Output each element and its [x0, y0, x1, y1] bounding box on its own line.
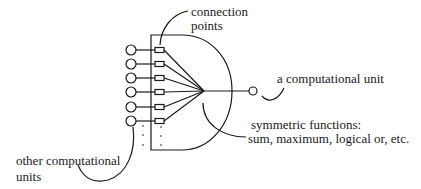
input-units: [126, 45, 136, 126]
connection-points: [155, 48, 164, 124]
other-units-label-line2: units: [16, 170, 41, 184]
other-units-label-line1: other computational: [16, 154, 120, 168]
continuation-dots: [142, 125, 162, 146]
connection-points-leader: [160, 11, 188, 45]
input-unit: [126, 45, 136, 55]
connection-points-label-line2: points: [191, 19, 223, 33]
connection-point: [155, 76, 164, 81]
computational-unit-label: a computational unit: [277, 72, 384, 86]
input-unit: [126, 87, 136, 97]
computational-unit-leader: [262, 88, 284, 100]
input-unit: [126, 102, 136, 112]
symmetric-functions-label-line2: sum, maximum, logical or, etc.: [248, 132, 409, 146]
input-unit: [126, 73, 136, 83]
fan-in-lines: [164, 50, 204, 121]
symmetric-functions-leader: [203, 103, 246, 137]
connection-point: [155, 48, 164, 53]
connection-point: [155, 62, 164, 67]
connection-points-label-line1: connection: [191, 5, 248, 19]
diagram-canvas: connection points a computational unit s…: [0, 0, 421, 189]
connection-point: [155, 105, 164, 110]
input-unit: [126, 116, 136, 126]
connection-point: [155, 90, 164, 95]
output-unit: [249, 87, 257, 95]
connection-point: [155, 119, 164, 124]
symmetric-functions-label-line1: symmetric functions:: [251, 118, 361, 132]
input-lines: [136, 50, 155, 121]
input-unit: [126, 59, 136, 69]
